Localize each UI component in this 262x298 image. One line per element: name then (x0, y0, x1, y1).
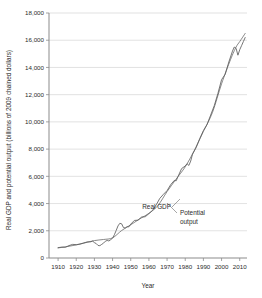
y-axis-tick-labels: 02,0004,0006,0008,00010,00012,00014,0001… (25, 9, 44, 261)
x-tick-label: 1920 (69, 263, 83, 270)
x-tick-label: 1910 (51, 263, 65, 270)
real-gdp-annotation: Real GDP (142, 203, 171, 210)
y-tick-label: 16,000 (25, 36, 44, 43)
y-tick-label: 0 (41, 254, 45, 261)
real-gdp-line (58, 38, 245, 248)
y-tick-label: 12,000 (25, 91, 44, 98)
x-tick-label: 1930 (88, 263, 102, 270)
y-tick-label: 2,000 (29, 227, 45, 234)
x-tick-label: 1950 (124, 263, 138, 270)
y-tick-label: 14,000 (25, 64, 44, 71)
real-gdp-potential-output-chart: 02,0004,0006,0008,00010,00012,00014,0001… (0, 0, 262, 298)
y-tick-label: 18,000 (25, 9, 44, 16)
potential-output-annotation-line1: Potential (180, 209, 205, 216)
x-tick-label: 1980 (178, 263, 192, 270)
y-tick-label: 4,000 (29, 200, 45, 207)
x-axis-title: Year (142, 282, 156, 289)
real-gdp-leader-line (172, 199, 180, 207)
x-axis-tick-labels: 1910192019301940195019601970198019902000… (51, 263, 247, 270)
y-tick-label: 6,000 (29, 173, 45, 180)
potential-output-line (58, 33, 245, 248)
x-tick-label: 2000 (215, 263, 229, 270)
potential-output-annotation-line2: output (180, 218, 198, 226)
x-tick-label: 1970 (160, 263, 174, 270)
x-tick-label: 1940 (106, 263, 120, 270)
gridlines (49, 13, 247, 231)
y-tick-label: 8,000 (29, 145, 45, 152)
x-tick-label: 1990 (197, 263, 211, 270)
chart-figure: 02,0004,0006,0008,00010,00012,00014,0001… (0, 0, 262, 298)
y-axis-title: Real GDP and potential output (billions … (5, 50, 13, 230)
x-tick-label: 1960 (142, 263, 156, 270)
y-tick-label: 10,000 (25, 118, 44, 125)
x-tick-label: 2010 (233, 263, 247, 270)
